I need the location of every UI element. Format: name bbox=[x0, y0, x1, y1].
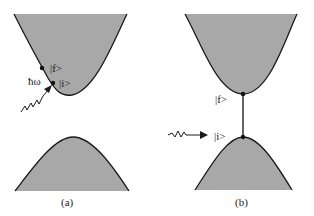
panel-b-valence-band bbox=[195, 137, 292, 190]
panel-a-caption: (a) bbox=[61, 196, 74, 209]
panel-a-valence-band bbox=[15, 137, 129, 191]
panel-b-initial-state-dot bbox=[241, 135, 245, 139]
panel-b-caption: (b) bbox=[235, 196, 248, 209]
panel-a: |f> |i> ħω (a) bbox=[14, 14, 129, 209]
panel-a-initial-state-dot bbox=[51, 81, 55, 85]
panel-b-photon-arrowhead-icon bbox=[200, 131, 208, 139]
band-diagram-figure: |f> |i> ħω (a) |f> |i> (b) bbox=[0, 0, 314, 216]
panel-b-photon-wave-icon bbox=[168, 131, 202, 137]
panel-b-final-state-label: |f> bbox=[215, 93, 227, 105]
panel-a-photon-energy-label: ħω bbox=[28, 75, 41, 87]
panel-a-final-state-label: |f> bbox=[50, 62, 62, 74]
panel-a-final-state-dot bbox=[40, 66, 44, 70]
panel-b-initial-state-label: |i> bbox=[214, 130, 225, 142]
panel-b-final-state-dot bbox=[241, 92, 245, 96]
panel-b: |f> |i> (b) bbox=[168, 14, 297, 209]
panel-a-initial-state-label: |i> bbox=[59, 77, 70, 89]
panel-a-photon-wave-icon bbox=[21, 89, 49, 112]
panel-a-photon-arrowhead-icon bbox=[44, 85, 52, 93]
